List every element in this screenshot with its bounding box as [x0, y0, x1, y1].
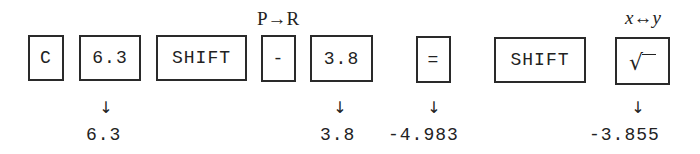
- key-shift-2[interactable]: SHIFT: [494, 37, 586, 83]
- key-number-label: 3.8: [324, 49, 359, 69]
- result-value: -4.983: [388, 125, 459, 145]
- square-root-icon: √: [629, 52, 656, 74]
- key-clear[interactable]: C: [28, 35, 64, 81]
- key-shift-label: SHIFT: [172, 48, 231, 68]
- key-minus-label: -: [273, 49, 285, 69]
- shift-label-x-swap-y: x↔y: [615, 7, 671, 29]
- down-arrow-icon: ↓: [424, 98, 444, 117]
- key-minus[interactable]: -: [261, 35, 296, 82]
- result-value: 3.8: [320, 125, 355, 145]
- key-number-3-8[interactable]: 3.8: [310, 35, 373, 82]
- result-value: 6.3: [86, 125, 121, 145]
- key-number-label: 6.3: [92, 48, 127, 68]
- key-shift-1[interactable]: SHIFT: [156, 35, 247, 81]
- key-shift-label: SHIFT: [510, 50, 569, 70]
- key-equals-label: =: [428, 50, 440, 70]
- key-clear-label: C: [40, 48, 52, 68]
- down-arrow-icon: ↓: [330, 98, 350, 117]
- down-arrow-icon: ↓: [96, 98, 116, 117]
- key-square-root[interactable]: √: [615, 37, 670, 85]
- down-arrow-icon: ↓: [628, 98, 648, 117]
- result-value: -3.855: [589, 125, 660, 145]
- shift-label-p-to-r: P→R: [256, 8, 300, 30]
- key-equals[interactable]: =: [416, 36, 451, 83]
- key-number-6-3[interactable]: 6.3: [79, 35, 141, 81]
